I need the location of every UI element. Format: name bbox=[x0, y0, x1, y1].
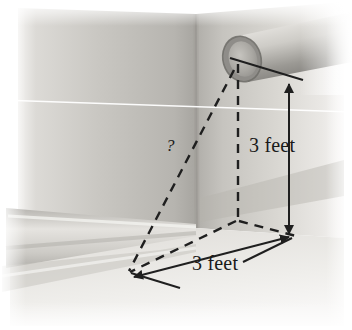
wall-corner-edge-core bbox=[196, 14, 197, 228]
width-dimension-label: 3 feet bbox=[192, 252, 238, 275]
figure-svg bbox=[0, 0, 352, 330]
vignette-left bbox=[0, 0, 26, 330]
vignette-right bbox=[326, 0, 352, 330]
vignette-top bbox=[0, 0, 352, 26]
vignette-bottom bbox=[0, 302, 352, 330]
height-dimension-label: 3 feet bbox=[249, 134, 295, 157]
figure-canvas: 3 feet 3 feet ? bbox=[0, 0, 352, 330]
unknown-length-label: ? bbox=[166, 136, 175, 156]
